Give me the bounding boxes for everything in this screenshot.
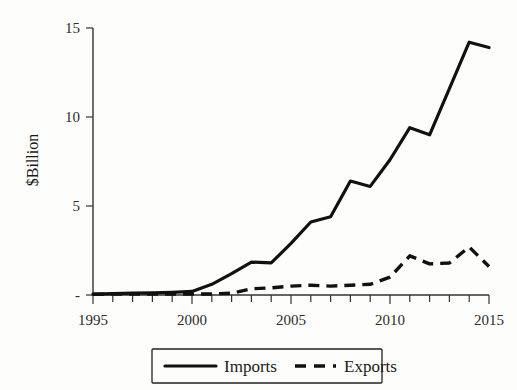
x-tick-label: 1995 (78, 312, 108, 328)
line-chart: -51015 $Billion 19952000200520102015 Imp… (0, 0, 517, 390)
legend-label-exports[interactable]: Exports (344, 357, 397, 376)
legend: Imports Exports (152, 349, 397, 383)
x-axis-group: 19952000200520102015 (78, 295, 504, 328)
legend-label-imports[interactable]: Imports (224, 357, 277, 376)
y-axis-ticks (86, 28, 93, 295)
y-axis-group: -51015 $Billion (24, 20, 93, 303)
x-tick-label: 2005 (276, 312, 306, 328)
series-line-imports (93, 42, 489, 294)
x-tick-label: 2000 (177, 312, 207, 328)
y-tick-label: 15 (65, 20, 80, 36)
y-axis-title: $Billion (24, 134, 41, 186)
x-axis-ticks (93, 295, 489, 304)
plot-area (93, 42, 489, 294)
y-axis-tick-labels: -51015 (65, 20, 80, 303)
x-tick-label: 2015 (474, 312, 504, 328)
y-tick-label: 10 (65, 109, 80, 125)
x-tick-label: 2010 (375, 312, 405, 328)
series-line-exports (93, 247, 489, 294)
y-tick-label: - (75, 287, 80, 303)
y-tick-label: 5 (73, 198, 81, 214)
x-axis-tick-labels: 19952000200520102015 (78, 312, 504, 328)
chart-container: -51015 $Billion 19952000200520102015 Imp… (0, 0, 517, 390)
